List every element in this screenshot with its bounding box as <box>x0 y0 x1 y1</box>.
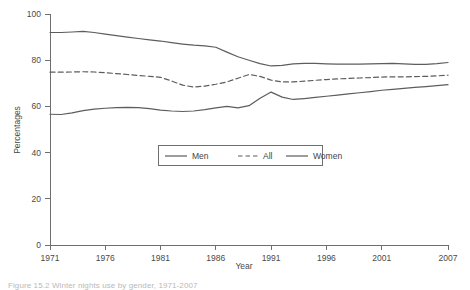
series-lines <box>50 31 448 114</box>
figure-caption: Figure 15.2 Winter nights use by gender,… <box>8 281 460 290</box>
y-tick-label: 60 <box>32 101 42 111</box>
y-tick-label: 0 <box>36 240 41 250</box>
x-tick-label: 1991 <box>262 253 281 263</box>
y-tick-label: 100 <box>27 9 41 19</box>
y-axis-title: Percentages <box>12 106 22 154</box>
chart-legend[interactable]: MenAllWomen <box>159 146 343 166</box>
x-axis-ticks <box>50 245 448 250</box>
y-axis-tick-labels: 020406080100 <box>27 9 41 250</box>
x-axis-title: Year <box>235 261 252 271</box>
series-line-men <box>50 31 448 66</box>
x-tick-label: 1981 <box>151 253 170 263</box>
x-tick-label: 1971 <box>41 253 60 263</box>
x-tick-label: 2001 <box>372 253 391 263</box>
series-line-all <box>50 72 448 87</box>
x-tick-label: 2007 <box>439 253 458 263</box>
y-tick-label: 40 <box>32 148 42 158</box>
y-tick-label: 20 <box>32 194 42 204</box>
legend-label-all: All <box>263 151 273 161</box>
y-axis: 020406080100 <box>27 9 50 250</box>
y-axis-ticks <box>45 14 50 245</box>
series-line-women <box>50 85 448 115</box>
legend-label-men: Men <box>192 151 209 161</box>
y-tick-label: 80 <box>32 55 42 65</box>
x-tick-label: 1976 <box>96 253 115 263</box>
legend-label-women: Women <box>313 151 342 161</box>
x-tick-label: 1996 <box>317 253 336 263</box>
x-tick-label: 1986 <box>206 253 225 263</box>
